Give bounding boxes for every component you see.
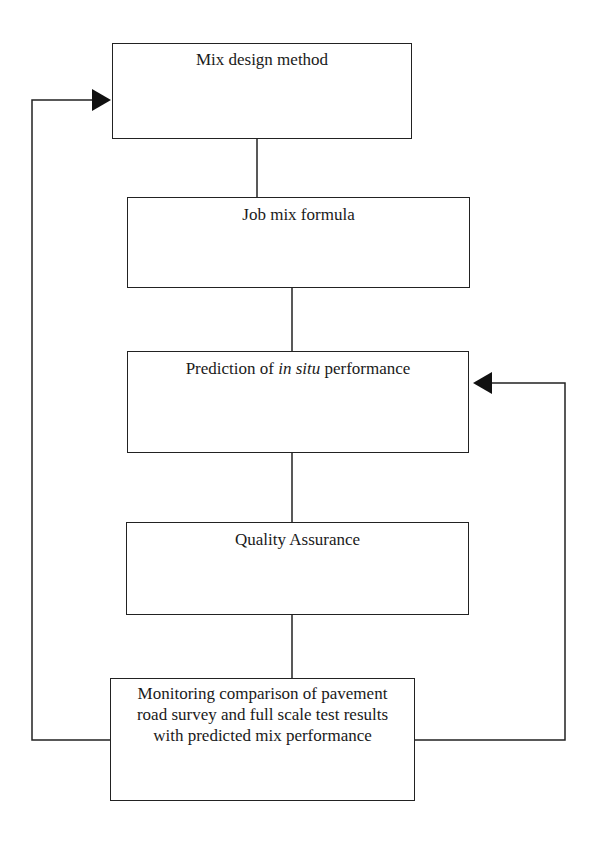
node-label: Prediction of in situ performance <box>128 358 468 379</box>
arrowhead-icon <box>473 372 492 394</box>
node-label: Mix design method <box>113 49 411 70</box>
arrowhead-icon <box>92 89 111 111</box>
node-mix-design-method: Mix design method <box>112 43 412 139</box>
node-prediction-performance: Prediction of in situ performance <box>127 351 469 453</box>
node-job-mix-formula: Job mix formula <box>127 197 470 288</box>
edge-n5-n1-loop <box>32 100 110 740</box>
node-quality-assurance: Quality Assurance <box>126 522 469 615</box>
node-label: Job mix formula <box>128 204 469 225</box>
node-label-line: with predicted mix performance <box>111 725 414 746</box>
node-label-line: road survey and full scale test results <box>111 704 414 725</box>
node-label-line: Monitoring comparison of pavement <box>111 683 414 704</box>
node-label: Quality Assurance <box>127 529 468 550</box>
node-monitoring-comparison: Monitoring comparison of pavement road s… <box>110 678 415 801</box>
